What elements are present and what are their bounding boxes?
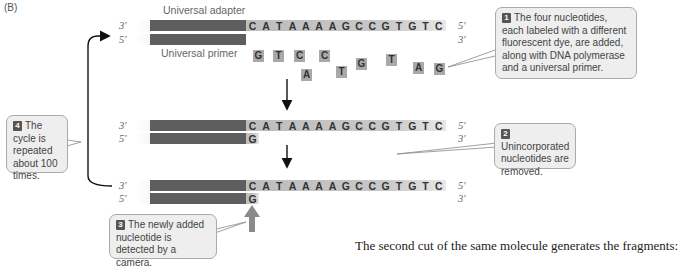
step-number-badge: 1	[502, 13, 511, 23]
step-number-badge: 3	[116, 220, 125, 230]
step-number-badge: 4	[13, 121, 22, 131]
step-number-badge: 2	[501, 129, 510, 139]
callout-step-4: 4The cycle is repeated about 100 times.	[6, 115, 68, 173]
callout-text: The four nucleotides, each labeled with …	[502, 12, 626, 73]
callout-step-3: 3The newly added nucleotide is detected …	[109, 214, 217, 259]
callout-text: The newly added nucleotide is detected b…	[116, 219, 204, 268]
camera-arrow-icon	[244, 205, 260, 232]
callout-step-1: 1The four nucleotides, each labeled with…	[495, 7, 637, 79]
callout-step-2: 2Unincorporated nucleotides are removed.	[494, 123, 576, 169]
caption-text: The second cut of the same molecule gene…	[355, 238, 678, 254]
cycle-arrow-icon	[88, 36, 112, 186]
